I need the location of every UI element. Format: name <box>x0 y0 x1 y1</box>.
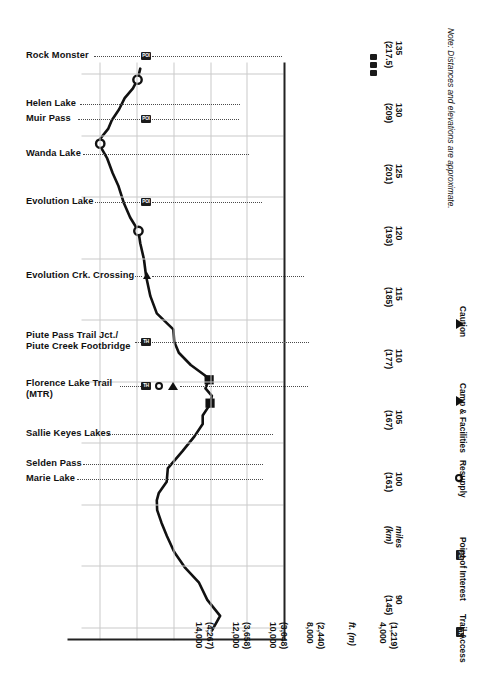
leader-helen-lake <box>80 104 240 105</box>
leader-florence-lake-2 <box>180 386 308 387</box>
x-tick-km: (193) <box>384 226 394 246</box>
y-tick-8,000: 8,000 <box>305 622 315 644</box>
x-tick-120: 120(193) <box>384 226 404 246</box>
figure-note: Note: Distances and elevations are appro… <box>446 28 456 209</box>
annotation-evolution-lake: Evolution Lake <box>26 196 94 207</box>
x-tick-110: 110(177) <box>384 349 404 369</box>
th-badge-piute-pass: TH <box>141 338 151 346</box>
marker-circle <box>134 226 142 234</box>
gridline-distance <box>81 627 283 628</box>
leader-evolution-lake <box>95 202 140 203</box>
x-tick-125: 125(201) <box>384 164 404 184</box>
resupply-icon-florence-lake <box>155 382 163 390</box>
mini-badge-1 <box>370 54 377 60</box>
gridline-distance <box>81 258 283 259</box>
x-tick-km: (217.5) <box>384 41 394 68</box>
leader-piute-pass-2 <box>152 342 309 343</box>
annotation-helen-lake: Helen Lake <box>26 98 76 109</box>
leader-evolution-creek <box>135 276 142 277</box>
mini-badge-2 <box>370 62 377 68</box>
x-tick-km: (145) <box>384 595 394 615</box>
x-tick-130: 130(209) <box>384 103 404 123</box>
gridline-distance <box>81 319 283 320</box>
gridline-elevation <box>210 62 211 640</box>
y-tick-meters: (3,658) <box>242 622 252 649</box>
gridline-elevation <box>136 62 137 640</box>
x-tick-100: 100(161) <box>384 472 404 492</box>
gridline-distance <box>81 135 283 136</box>
legend-label-caution: Caution <box>458 306 468 337</box>
x-tick-miles: 90 <box>394 595 404 605</box>
marker-square <box>204 375 213 384</box>
camp-icon-florence-lake <box>168 382 178 390</box>
x-tick-miles: 100 <box>394 472 404 486</box>
x-axis-unit-miles: miles <box>394 526 404 548</box>
legend-label-point-of-interest: Point of Interest <box>458 537 468 601</box>
y-tick-meters: (1,219) <box>389 622 399 649</box>
x-tick-135: 135(217.5) <box>384 41 404 68</box>
leader-evolution-creek-2 <box>152 276 304 277</box>
y-tick-meters: (3,048) <box>279 622 289 649</box>
y-tick-4,000: 4,000 <box>378 622 388 644</box>
poi-badge-rock-monster: POI <box>141 52 151 60</box>
x-tick-miles: 125 <box>394 164 404 178</box>
x-tick-km: (161) <box>384 472 394 492</box>
x-tick-km: (177) <box>384 349 394 369</box>
leader-wanda-lake <box>83 154 249 155</box>
leader-marie-lake <box>77 479 263 480</box>
th-badge-florence-lake: TH <box>141 382 151 390</box>
annotation-florence-lake: Florence Lake Trail (MTR) <box>26 378 112 401</box>
leader-selden-pass <box>83 464 263 465</box>
x-tick-km: (209) <box>384 103 394 123</box>
axis-elevation-baseline <box>283 62 285 640</box>
x-tick-miles: 115 <box>394 287 404 301</box>
x-tick-90: 90(145) <box>384 595 404 615</box>
y-tick-10,000: 10,000 <box>268 622 278 648</box>
annotation-muir-pass: Muir Pass <box>26 113 71 124</box>
annotation-sallie-keyes: Sallie Keyes Lakes <box>26 428 111 439</box>
x-axis-unit-km: (km) <box>384 526 394 548</box>
leader-sallie-keyes <box>108 434 273 435</box>
x-tick-miles: 120 <box>394 226 404 240</box>
y-tick-meters: (2,440) <box>316 622 326 649</box>
elevation-profile-figure: Rock Monster POI Helen Lake Muir Pass PO… <box>0 0 479 684</box>
annotation-selden-pass: Selden Pass <box>26 458 82 469</box>
x-tick-km: (185) <box>384 287 394 307</box>
poi-badge-muir-pass: POI <box>141 115 151 123</box>
legend-label-trail-access: Trail Access <box>458 614 468 663</box>
x-tick-km: (167) <box>384 410 394 430</box>
leader-muir-pass <box>78 119 140 120</box>
annotation-rock-monster: Rock Monster <box>26 50 89 61</box>
annotation-evolution-creek: Evolution Crk. Crossing <box>26 270 134 281</box>
x-tick-miles: 130 <box>394 103 404 117</box>
annotation-marie-lake: Marie Lake <box>26 473 75 484</box>
gridline-distance <box>81 504 283 505</box>
leader-rock-monster-2 <box>152 56 282 57</box>
gridline-elevation <box>173 62 174 640</box>
leader-muir-pass-2 <box>152 119 239 120</box>
leader-rock-monster <box>94 56 140 57</box>
gridline-distance <box>81 196 283 197</box>
x-tick-km: (201) <box>384 164 394 184</box>
annotation-wanda-lake: Wanda Lake <box>26 148 81 159</box>
y-tick-14,000: 14,000 <box>194 622 204 648</box>
caution-icon-evolution-creek <box>143 272 151 279</box>
legend-label-camp-facilities: Camp & Facilities <box>458 383 468 453</box>
y-tick-meters: (4,267) <box>205 622 215 649</box>
y-tick-12,000: 12,000 <box>231 622 241 648</box>
x-tick-miles: 135 <box>394 41 404 55</box>
gridline-elevation <box>246 62 247 640</box>
leader-florence-lake <box>120 386 141 387</box>
legend-label-resupply: Resupply <box>458 460 468 498</box>
x-axis-unit-label: miles(km) <box>384 526 404 548</box>
gridline-distance <box>81 442 283 443</box>
x-tick-miles: 110 <box>394 349 404 363</box>
x-tick-miles: 105 <box>394 410 404 424</box>
x-tick-105: 105(167) <box>384 410 404 430</box>
y-axis-unit-label: ft. (m) <box>347 622 357 646</box>
gridline-distance <box>81 73 283 74</box>
leader-evolution-lake-2 <box>152 202 262 203</box>
poi-badge-evolution-lake: POI <box>141 198 151 206</box>
annotation-piute-pass: Piute Pass Trail Jct./ Piute Creek Footb… <box>26 330 130 353</box>
gridline-distance <box>81 565 283 566</box>
